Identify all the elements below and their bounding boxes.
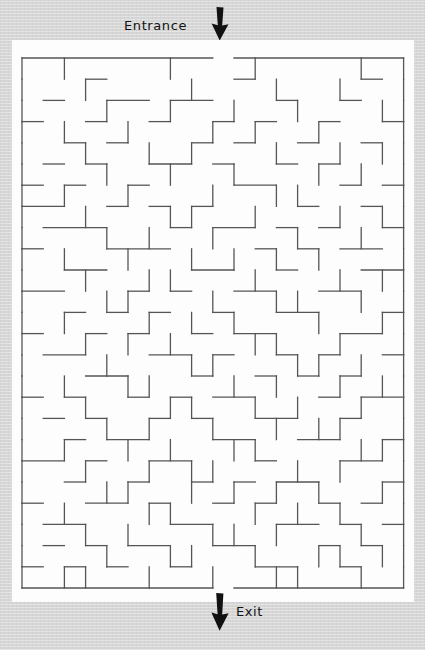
arrow-down-icon — [207, 592, 233, 632]
entrance-label: Entrance — [124, 18, 187, 33]
maze-page: Entrance Exit — [0, 0, 425, 650]
arrow-down-icon — [207, 6, 233, 42]
maze-paper — [12, 40, 414, 602]
maze-grid — [12, 40, 414, 602]
exit-label: Exit — [236, 604, 263, 619]
